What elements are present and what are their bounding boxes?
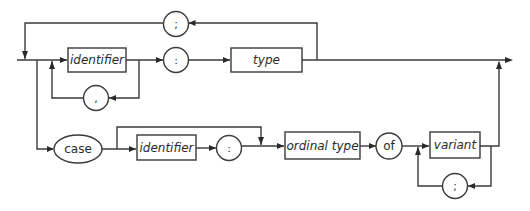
- variant-label: variant: [434, 138, 478, 152]
- arrow-icon: [156, 57, 163, 63]
- semicolon-label: ;: [174, 18, 178, 31]
- ordinal-type-label: ordinal type: [286, 139, 358, 153]
- arrow-icon: [22, 51, 28, 59]
- arrow-icon: [49, 61, 55, 69]
- ordinal-type-box: ordinal type: [285, 132, 360, 159]
- case-label: case: [64, 142, 92, 156]
- arrow-icon: [209, 145, 216, 151]
- arrow-icon: [129, 146, 136, 152]
- of-keyword-terminal: of: [376, 133, 402, 159]
- semicolon-terminal-top: ;: [164, 12, 189, 37]
- semicolon-terminal-bottom: ;: [443, 174, 468, 199]
- case-branch-line: [37, 60, 53, 149]
- colon-label: :: [174, 54, 178, 67]
- identifier-label: identifier: [70, 53, 125, 67]
- semicolon-label: ;: [453, 180, 457, 193]
- colon-label: :: [227, 142, 231, 155]
- arrow-icon: [415, 147, 421, 155]
- arrow-icon: [277, 143, 284, 149]
- colon-terminal-bottom: :: [217, 136, 242, 161]
- syntax-diagram: identifier : type ; , case: [0, 0, 530, 211]
- arrow-icon: [47, 146, 54, 152]
- variant-box: variant: [430, 132, 480, 158]
- arrow-icon: [223, 57, 230, 63]
- arrow-icon: [189, 20, 196, 26]
- arrow-icon: [468, 183, 475, 189]
- arrow-icon: [60, 57, 67, 63]
- case-keyword-terminal: case: [54, 135, 102, 163]
- arrow-icon: [422, 143, 429, 149]
- arrow-icon: [109, 95, 116, 101]
- type-box: type: [231, 48, 302, 72]
- identifier-box-top: identifier: [68, 48, 126, 72]
- colon-terminal-top: :: [164, 48, 189, 73]
- of-label: of: [383, 139, 395, 153]
- identifier-label: identifier: [139, 141, 194, 155]
- arrow-icon: [496, 61, 502, 69]
- arrow-icon: [505, 57, 513, 63]
- type-label: type: [253, 53, 280, 67]
- arrow-icon: [258, 137, 264, 145]
- comma-label: ,: [94, 92, 98, 105]
- arrow-icon: [369, 143, 376, 149]
- variant-exit-line: [480, 62, 499, 146]
- identifier-box-bottom: identifier: [137, 135, 196, 160]
- comma-terminal: ,: [84, 86, 109, 111]
